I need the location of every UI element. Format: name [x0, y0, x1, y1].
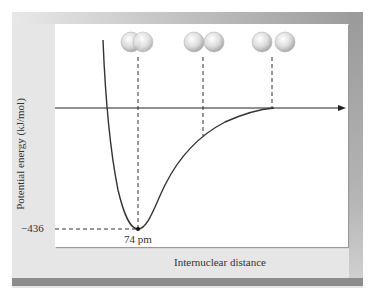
- y-axis-label: Potential energy (kJ/mol): [14, 94, 26, 214]
- x-tick-bond-length: 74 pm: [124, 233, 152, 245]
- y-tick-min-energy: −436: [21, 222, 44, 234]
- x-axis-label: Internuclear distance: [150, 256, 290, 268]
- molecule-bonded-icon: [121, 32, 153, 52]
- molecule-touching-icon: [184, 32, 224, 52]
- potential-energy-curve: [103, 40, 274, 229]
- minimum-point: [136, 227, 140, 231]
- axis-arrow-icon: [338, 105, 346, 111]
- molecule-separated-icon: [252, 32, 295, 52]
- potential-energy-chart: [0, 0, 374, 300]
